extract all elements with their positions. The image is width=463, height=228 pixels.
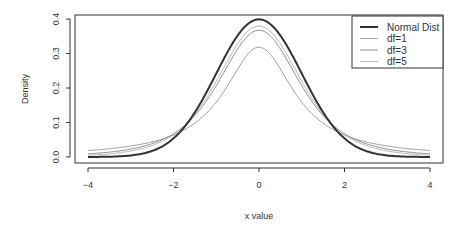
y-tick-label: 0.2: [51, 82, 61, 95]
x-tick-label: 0: [256, 180, 261, 190]
y-tick-label: 0.3: [51, 47, 61, 60]
density-chart: 0.00.10.20.30.4 −4−2024 x value Density …: [0, 0, 463, 228]
legend-label: df=1: [387, 33, 407, 44]
y-axis: 0.00.10.20.30.4: [51, 13, 70, 164]
legend-label: Normal Dist: [387, 22, 439, 33]
x-axis-label: x value: [245, 211, 274, 221]
legend-label: df=5: [387, 56, 407, 67]
y-tick-label: 0.0: [51, 151, 61, 164]
x-tick-label: 2: [342, 180, 347, 190]
x-axis: −4−2024: [83, 168, 433, 190]
y-tick-label: 0.4: [51, 13, 61, 26]
y-tick-label: 0.1: [51, 116, 61, 129]
legend: Normal Distdf=1df=3df=5: [352, 16, 443, 68]
legend-label: df=3: [387, 45, 407, 56]
x-tick-label: 4: [427, 180, 432, 190]
x-tick-label: −4: [83, 180, 93, 190]
x-tick-label: −2: [168, 180, 178, 190]
y-axis-label: Density: [20, 73, 30, 104]
